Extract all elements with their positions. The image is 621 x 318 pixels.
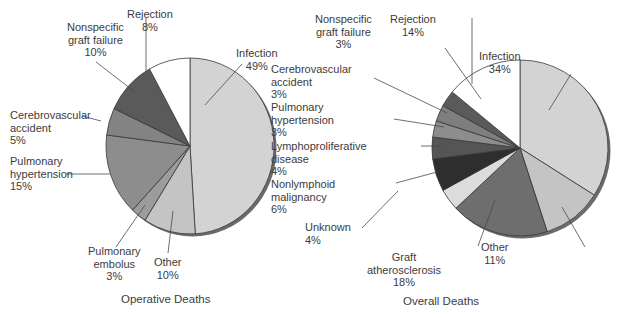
label-right-graft-atherosclerosis: Graft atherosclerosis 18% <box>367 251 441 289</box>
label-left-other: Other 10% <box>154 256 182 281</box>
label-right-lymphoproliferative-disease: Lymphoproliferative disease 4% <box>271 140 367 178</box>
label-left-pulmonary-embolus: Pulmonary embolus 3% <box>88 245 141 283</box>
label-left-cerebrovascular-accident: Cerebrovascular accident 5% <box>10 109 91 147</box>
label-right-nonspecific-graft-failure: Nonspecific graft failure 3% <box>315 13 372 51</box>
label-right-cerebrovascular-accident: Cerebrovascular accident 3% <box>271 63 352 101</box>
label-right-other: Other 11% <box>481 241 509 266</box>
label-right-unknown: Unknown 4% <box>305 221 351 246</box>
label-right-nonlymphoid-malignancy: Nonlymphoid malignancy 6% <box>271 178 335 216</box>
overall-deaths-pie <box>432 60 611 239</box>
chart-title-operative-deaths: Operative Deaths <box>121 293 211 305</box>
label-right-rejection: Rejection 14% <box>390 13 436 38</box>
label-right-infection: Infection 34% <box>479 50 521 75</box>
label-left-nonspecific-graft-failure: Nonspecific graft failure 10% <box>67 21 124 59</box>
operative-deaths-pie <box>106 58 277 237</box>
label-left-rejection: Rejection 8% <box>127 8 173 33</box>
label-right-pulmonary-hypertension: Pulmonary hypertension 3% <box>271 101 334 139</box>
label-left-pulmonary-hypertension: Pulmonary hypertension 15% <box>10 155 73 193</box>
chart-title-overall-deaths: Overall Deaths <box>403 295 479 307</box>
pie-slice-infection <box>190 58 274 234</box>
